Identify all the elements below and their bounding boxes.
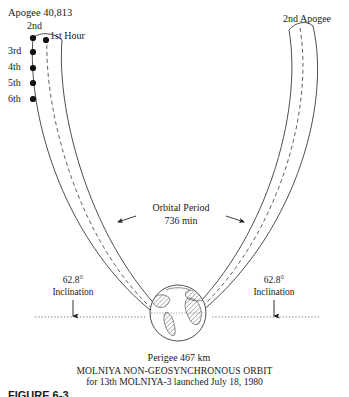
hour-dot-5th bbox=[30, 80, 36, 86]
hour-label-1st: 1st Hour bbox=[50, 30, 85, 41]
orbital-period-title: Orbital Period bbox=[153, 202, 210, 213]
inclination-angle-right: 62.8° bbox=[243, 275, 305, 286]
hour-label-5th: 5th bbox=[8, 77, 21, 88]
inclination-word-left: Inclination bbox=[42, 287, 104, 298]
orbital-period-leader-right bbox=[226, 216, 244, 222]
inclination-annotation-left: 62.8° Inclination bbox=[42, 275, 104, 297]
figure-number-label: FIGURE 6-3 bbox=[8, 389, 69, 397]
hour-dot-6th bbox=[30, 96, 36, 102]
hour-label-2nd: 2nd bbox=[27, 20, 42, 31]
inclination-angle-left: 62.8° bbox=[42, 275, 104, 286]
orbital-period-leader-left bbox=[118, 216, 136, 222]
hour-dot-3rd bbox=[30, 49, 36, 55]
figure-caption-subtitle: for 13th MOLNIYA-3 launched July 18, 198… bbox=[0, 377, 349, 388]
hour-label-6th: 6th bbox=[8, 93, 21, 104]
orbital-period-value: 736 min bbox=[139, 215, 223, 226]
hour-dot-4th bbox=[30, 65, 36, 71]
apogee-value-label: Apogee 40,813 bbox=[8, 7, 72, 19]
hour-dot-1st bbox=[43, 37, 49, 43]
perigee-label: Perigee 467 km bbox=[129, 352, 229, 363]
second-apogee-label: 2nd Apogee bbox=[283, 13, 331, 24]
right-orbit-curve-outer bbox=[196, 26, 318, 316]
inclination-word-right: Inclination bbox=[243, 287, 305, 298]
hour-dot-2nd bbox=[30, 35, 36, 41]
inclination-annotation-right: 62.8° Inclination bbox=[243, 275, 305, 297]
hour-label-4th: 4th bbox=[8, 61, 21, 72]
orbital-period-annotation: Orbital Period 736 min bbox=[139, 202, 223, 226]
molniya-orbit-figure: Apogee 40,813 2nd 1st Hour 3rd 4th 5th 6… bbox=[0, 0, 349, 397]
orbit-diagram-graphic bbox=[0, 0, 349, 397]
left-orbit-curve-outer bbox=[32, 38, 150, 310]
hour-label-3rd: 3rd bbox=[8, 45, 21, 56]
